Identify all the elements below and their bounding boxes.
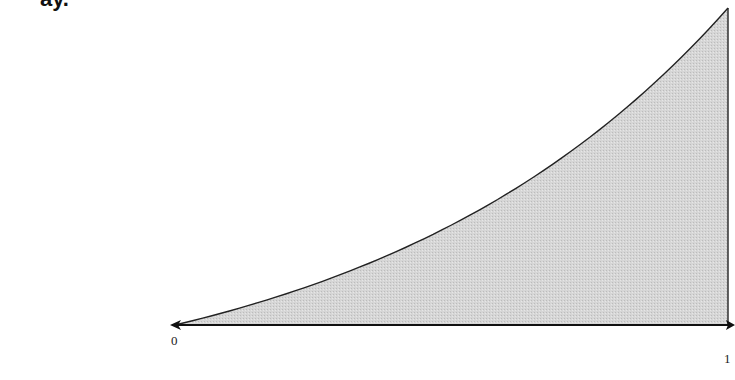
- x-tick-label-1: 1: [724, 351, 731, 367]
- shaded-region: [175, 8, 728, 325]
- area-under-curve-diagram: [0, 0, 735, 380]
- x-tick-label-0: 0: [171, 333, 178, 349]
